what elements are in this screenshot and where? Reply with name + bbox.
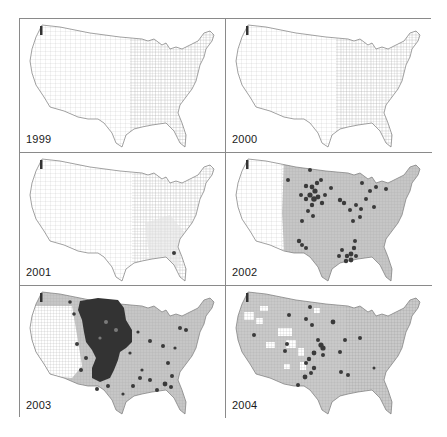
map-panel-2004: 2004 <box>226 286 432 418</box>
year-label: 2000 <box>232 133 257 145</box>
map-panel-1999: 1999 <box>20 19 226 153</box>
map-panel-2003: 2003 <box>20 286 226 418</box>
year-label: 2002 <box>232 266 257 278</box>
map-panel-2000: 2000 <box>226 19 432 153</box>
year-label: 1999 <box>26 133 51 145</box>
map-panel-2001: 2001 <box>20 153 226 286</box>
year-label: 2001 <box>26 266 51 278</box>
year-label: 2003 <box>26 399 51 411</box>
year-label: 2004 <box>232 399 257 411</box>
map-panel-2002: 2002 <box>226 153 432 286</box>
puget-sound-mark <box>40 26 43 35</box>
small-multiples-grid: 1999 2000 2001 <box>19 18 431 417</box>
case-dot <box>172 251 176 255</box>
